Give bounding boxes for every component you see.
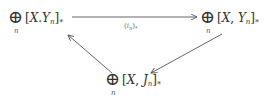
right-node: ⊕ n [X, Yn]*	[200, 8, 265, 34]
top-arrow-label: (in)*	[124, 22, 137, 31]
right-to-bottom-arrow	[151, 34, 222, 73]
left-expression: [X.Yn]*	[25, 12, 63, 27]
direct-sum-icon: ⊕	[8, 8, 23, 26]
bottom-expression: [X, Jn]*	[122, 74, 161, 89]
direct-sum-icon: ⊕	[200, 8, 215, 26]
direct-sum-icon: ⊕	[105, 70, 120, 88]
sum-index: n	[206, 28, 211, 35]
sum-index: n	[111, 90, 116, 97]
sum-index: n	[14, 28, 19, 35]
bottom-node: ⊕ n [X, Jn]*	[105, 70, 175, 99]
right-expression: [X, Yn]*	[217, 12, 259, 27]
left-node: ⊕ n [X.Yn]*	[8, 8, 78, 34]
